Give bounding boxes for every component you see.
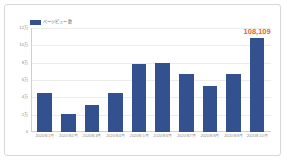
x-axis-tick-label: 2020年8月 bbox=[198, 134, 222, 144]
x-axis-tick-label: 2020年1月 bbox=[33, 134, 57, 144]
bar-slot[interactable] bbox=[33, 28, 57, 132]
bar[interactable] bbox=[132, 64, 147, 132]
x-axis-tick-label: 2020年5月 bbox=[127, 134, 151, 144]
bar-slot[interactable] bbox=[57, 28, 81, 132]
y-axis-tick-label: 0 bbox=[26, 130, 28, 134]
y-axis-tick-label: 6万 bbox=[22, 78, 28, 82]
y-axis: 12万10万8万6万4万2万0 bbox=[13, 28, 29, 132]
x-axis: 2020年1月2020年2月2020年3月2020年4月2020年5月2020年… bbox=[31, 134, 271, 144]
plot-area: 12万10万8万6万4万2万0 108,109 2020年1月2020年2月20… bbox=[13, 28, 271, 146]
bar[interactable] bbox=[226, 74, 241, 132]
x-axis-tick-label: 2020年10月 bbox=[245, 134, 269, 144]
y-axis-tick-label: 8万 bbox=[22, 61, 28, 65]
bar-slot[interactable]: 108,109 bbox=[245, 28, 269, 132]
bar-slot[interactable] bbox=[222, 28, 246, 132]
chart-legend: ページビュー数 bbox=[30, 18, 72, 26]
bar-slot[interactable] bbox=[80, 28, 104, 132]
bar[interactable] bbox=[179, 74, 194, 132]
legend-color-swatch bbox=[30, 20, 41, 25]
x-axis-tick-label: 2020年3月 bbox=[80, 134, 104, 144]
x-axis-tick-label: 2020年7月 bbox=[175, 134, 199, 144]
bar[interactable] bbox=[250, 38, 265, 132]
bar-slot[interactable] bbox=[151, 28, 175, 132]
bar-slot[interactable] bbox=[175, 28, 199, 132]
y-axis-tick-label: 4万 bbox=[22, 95, 28, 99]
y-axis-tick-label: 12万 bbox=[19, 26, 28, 30]
bar[interactable] bbox=[85, 105, 100, 132]
bar[interactable] bbox=[108, 93, 123, 132]
grid-area: 108,109 bbox=[31, 28, 271, 132]
legend-label: ページビュー数 bbox=[43, 20, 72, 24]
bar-series: 108,109 bbox=[31, 28, 271, 132]
x-axis-tick-label: 2020年4月 bbox=[104, 134, 128, 144]
chart-screenshot: ページビュー数 12万10万8万6万4万2万0 108,109 2020年1月2… bbox=[0, 0, 287, 162]
y-axis-tick-label: 2万 bbox=[22, 113, 28, 117]
bar[interactable] bbox=[155, 63, 170, 132]
bar[interactable] bbox=[203, 86, 218, 132]
bar[interactable] bbox=[61, 114, 76, 132]
x-axis-tick-label: 2020年9月 bbox=[222, 134, 246, 144]
x-axis-tick-label: 2020年6月 bbox=[151, 134, 175, 144]
bar[interactable] bbox=[37, 93, 52, 132]
bar-value-label: 108,109 bbox=[244, 28, 271, 36]
bar-slot[interactable] bbox=[198, 28, 222, 132]
bar-slot[interactable] bbox=[127, 28, 151, 132]
bar-slot[interactable] bbox=[104, 28, 128, 132]
x-axis-tick-label: 2020年2月 bbox=[57, 134, 81, 144]
y-axis-tick-label: 10万 bbox=[19, 43, 28, 47]
